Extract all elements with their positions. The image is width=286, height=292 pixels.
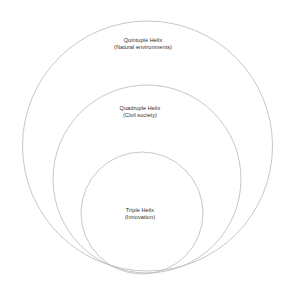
helix-diagram: Quintuple Helix (Natural environments) Q… [0, 0, 286, 292]
label-quadruple-helix: Quadruple Helix (Civil society) [0, 105, 286, 120]
label-quintuple-helix-subtitle: (Natural environments) [0, 44, 286, 51]
label-quintuple-helix-title: Quintuple Helix [0, 37, 286, 44]
label-triple-helix-title: Triple Helix [0, 207, 286, 214]
label-triple-helix: Triple Helix (Innovation) [0, 207, 286, 222]
label-triple-helix-subtitle: (Innovation) [0, 214, 286, 221]
label-quadruple-helix-subtitle: (Civil society) [0, 112, 286, 119]
label-quadruple-helix-title: Quadruple Helix [0, 105, 286, 112]
label-quintuple-helix: Quintuple Helix (Natural environments) [0, 37, 286, 52]
